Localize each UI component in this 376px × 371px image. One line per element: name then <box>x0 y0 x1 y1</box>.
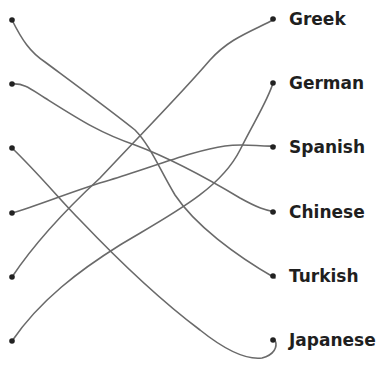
right-dot-spanish[interactable] <box>270 144 276 150</box>
right-dot-chinese[interactable] <box>270 209 276 215</box>
line-l6-german <box>12 83 273 341</box>
right-dot-japanese[interactable] <box>270 337 276 343</box>
label-spanish: Spanish <box>289 137 365 157</box>
line-l2-chinese <box>12 84 275 212</box>
line-l4-spanish <box>12 145 275 213</box>
label-greek: Greek <box>289 9 346 29</box>
label-japanese: Japanese <box>289 330 376 350</box>
left-dot-5[interactable] <box>9 274 15 280</box>
left-dot-2[interactable] <box>9 81 15 87</box>
left-dot-3[interactable] <box>9 145 15 151</box>
label-turkish: Turkish <box>289 266 359 286</box>
label-chinese: Chinese <box>289 202 365 222</box>
left-dot-4[interactable] <box>9 210 15 216</box>
left-dot-6[interactable] <box>9 338 15 344</box>
right-dot-german[interactable] <box>270 80 276 86</box>
label-german: German <box>289 73 364 93</box>
right-dot-turkish[interactable] <box>270 273 276 279</box>
left-dot-1[interactable] <box>9 17 15 23</box>
right-dot-greek[interactable] <box>270 16 276 22</box>
